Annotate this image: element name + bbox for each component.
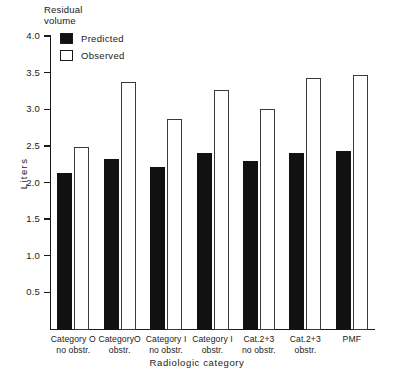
residual-volume-bar-chart: Residual volume Liters 0.51.01.52.02.53.…	[0, 0, 394, 376]
y-tick-label-3.5: 3.5	[0, 67, 40, 78]
bar-observed-5	[306, 78, 321, 330]
bar-predicted-0	[57, 173, 72, 330]
y-tick-label-0.5: 0.5	[0, 286, 40, 297]
bar-observed-2	[167, 119, 182, 330]
bar-predicted-4	[243, 161, 258, 330]
y-tick-label-2.0: 2.0	[0, 177, 40, 188]
bar-observed-4	[260, 109, 275, 330]
y-tick-label-4.0: 4.0	[0, 30, 40, 41]
y-tick-label-1.5: 1.5	[0, 213, 40, 224]
bar-observed-6	[353, 75, 368, 330]
bar-predicted-6	[336, 151, 351, 330]
x-tick-label-6: PMF	[322, 334, 382, 345]
y-tick-label-2.5: 2.5	[0, 140, 40, 151]
chart-title: Residual volume	[44, 4, 83, 26]
bar-predicted-1	[104, 159, 119, 330]
bar-predicted-5	[289, 153, 304, 330]
bar-observed-3	[214, 90, 229, 330]
y-tick-label-1.0: 1.0	[0, 250, 40, 261]
bar-predicted-2	[150, 167, 165, 330]
bar-predicted-3	[197, 153, 212, 330]
bar-observed-0	[74, 147, 89, 330]
plot-area	[50, 36, 374, 330]
y-tick-label-3.0: 3.0	[0, 103, 40, 114]
bar-observed-1	[121, 82, 136, 330]
x-axis-label: Radiologic category	[0, 357, 394, 368]
